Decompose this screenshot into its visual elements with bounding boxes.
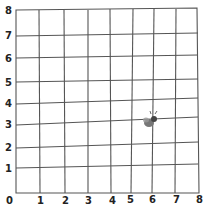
y-label-6: 6: [5, 54, 12, 64]
x-label-1: 1: [37, 196, 44, 206]
y-label-5: 5: [5, 78, 12, 88]
x-label-4: 4: [109, 196, 116, 206]
y-label-8: 8: [5, 6, 12, 16]
y-label-2: 2: [5, 143, 12, 153]
x-label-0: 0: [6, 196, 13, 206]
x-label-6: 6: [149, 195, 156, 205]
x-label-7: 7: [173, 195, 180, 205]
x-label-3: 3: [85, 196, 92, 206]
coordinate-grid: [0, 0, 207, 218]
x-label-8: 8: [196, 195, 203, 205]
y-label-7: 7: [5, 31, 12, 41]
x-label-2: 2: [62, 196, 69, 206]
y-label-1: 1: [5, 164, 12, 174]
y-label-3: 3: [5, 120, 12, 130]
grid-lines: [16, 8, 199, 193]
x-label-5: 5: [127, 195, 134, 205]
y-label-4: 4: [5, 99, 12, 109]
